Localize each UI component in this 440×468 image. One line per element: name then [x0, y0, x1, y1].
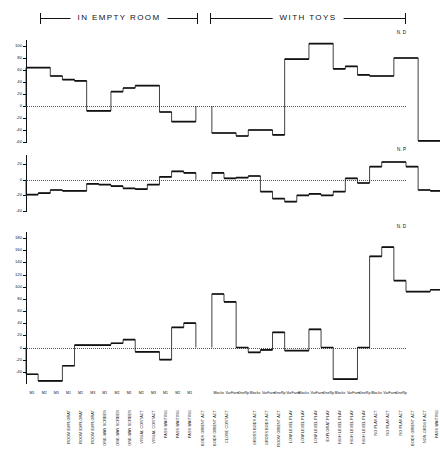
y-tick-label: 60 — [17, 309, 22, 313]
x-tick-sublabel: M2 — [113, 392, 122, 396]
step-top-group-1 — [26, 171, 196, 194]
bracket-label-right: WITH TOYS — [273, 8, 344, 28]
step-outline-group-1 — [26, 171, 196, 194]
step-top-group-2 — [212, 247, 440, 379]
x-tick-name: VISUAL CONTACT — [141, 410, 145, 468]
bracket-label-left: IN EMPTY ROOM — [71, 8, 168, 28]
x-tick-name: BODY ORIENT ACT — [202, 410, 206, 468]
x-tick-sublabel: VarFarm — [347, 392, 356, 396]
x-tick-name: NO PLAY ACT — [387, 410, 391, 468]
bracket-cap-right — [405, 13, 406, 24]
x-tick-sublabel: VarFarm — [383, 392, 392, 396]
x-tick-name: LOW LEVEL PLAY — [290, 410, 294, 468]
x-tick-sublabel: M1 — [125, 392, 134, 396]
y-tick-label: 40 — [17, 80, 22, 84]
x-tick-sublabel: M3 — [88, 392, 97, 396]
x-tick-name: PASS WAITING — [189, 410, 193, 468]
x-tick-name: BODY ORIENT ACT — [412, 410, 416, 468]
step-outline-group-2 — [212, 247, 440, 379]
x-tick-name: HIGH LEVEL PLAY — [351, 410, 355, 468]
x-tick-name: PASS WAITING — [177, 410, 181, 468]
bracket-cap-left — [40, 13, 41, 24]
x-tick-sublabel: M3 — [52, 392, 61, 396]
y-tick-label: -60 — [16, 140, 22, 144]
x-tick-sublabel: OneRp — [238, 392, 247, 396]
x-tick-name: NO PLAY ACT — [400, 410, 404, 468]
x-tick-name: GROSS BODY ACT — [266, 410, 270, 468]
step-outline-group-1 — [26, 323, 196, 381]
y-tick — [23, 142, 27, 143]
x-tick-name: ONE-WAY SCREEN — [104, 410, 108, 468]
bracket-in-empty-room: IN EMPTY ROOM — [40, 8, 198, 30]
x-tick-sublabel: VarFarm — [262, 392, 271, 396]
panel-c-step-trace — [26, 232, 406, 384]
x-tick-sublabel: OneRp — [274, 392, 283, 396]
y-tick-label: 160 — [15, 248, 22, 252]
y-tick-label: 80 — [17, 56, 22, 60]
x-tick-sublabel: M1 — [185, 392, 194, 396]
x-tick-sublabel: Blocks — [335, 392, 344, 396]
panel-a-step-trace — [26, 40, 406, 142]
x-tick-sublabel: M1 — [161, 392, 170, 396]
y-tick-label: 0 — [20, 345, 22, 349]
x-tick-name: PASS WAITING — [436, 410, 440, 468]
panel-a-corner-label: N. D — [397, 30, 406, 35]
x-tick-sublabel: M1 — [64, 392, 73, 396]
y-tick-label: 20 — [17, 333, 22, 337]
y-tick-label: 80 — [17, 297, 22, 301]
x-tick-sublabel: OneRp — [359, 392, 368, 396]
y-tick-label: -40 — [16, 209, 22, 213]
x-tick-sublabel: M2 — [173, 392, 182, 396]
x-tick-name: ROOM EXPLORAT — [68, 410, 72, 468]
x-tick-sublabel: M2 — [40, 392, 49, 396]
x-axis-labels: M1ROOM EXPLORATM2ROOM EXPLORATM3ROOM EXP… — [0, 392, 418, 468]
panel-b-step-trace — [26, 155, 406, 211]
x-tick-sublabel: M2 — [76, 392, 85, 396]
panel-c-plot: -40-20020406080100120140160180 — [26, 232, 406, 384]
x-tick-sublabel: VarFarm — [286, 392, 295, 396]
step-top-group-1 — [26, 323, 196, 381]
step-top-group-2 — [212, 44, 440, 141]
y-tick-label: 60 — [17, 68, 22, 72]
chart-panel-c: N. D -40-20020406080100120140160180 — [26, 232, 406, 384]
bracket-with-toys: WITH TOYS — [210, 8, 406, 30]
x-tick-sublabel: VarFarm — [226, 392, 235, 396]
x-tick-sublabel: M3 — [149, 392, 158, 396]
y-tick-label: -40 — [16, 370, 22, 374]
y-tick-label: -20 — [16, 116, 22, 120]
x-tick-name: ONE-WAY SCREEN — [117, 410, 121, 468]
x-tick-name: NON-GROUP ACT — [424, 410, 428, 468]
y-tick-label: 0 — [20, 178, 22, 182]
x-tick-name: LOW LEVEL PLAY — [315, 410, 319, 468]
y-tick-label: 100 — [15, 44, 22, 48]
chart-panel-a: N. D -60-40-20020406080100 — [26, 40, 406, 142]
x-tick-sublabel: M2 — [137, 392, 146, 396]
chart-panel-b: N. P -40-20020 — [26, 155, 406, 211]
x-tick-sublabel: OneRp — [395, 392, 404, 396]
x-tick-sublabel: Blocks — [213, 392, 222, 396]
x-tick-sublabel: Blocks — [371, 392, 380, 396]
x-tick-sublabel: VarFarm — [311, 392, 320, 396]
x-tick-name: ROOM EXPLORAT — [80, 410, 84, 468]
y-tick-label: 40 — [17, 321, 22, 325]
x-tick-sublabel: OneRp — [323, 392, 332, 396]
x-tick-name: BODY ORIENT ACT — [214, 410, 218, 468]
x-tick-sublabel: M1 — [100, 392, 109, 396]
y-tick — [23, 211, 27, 212]
bracket-cap-left — [210, 13, 211, 24]
x-tick-name: LOW LEVEL PLAY — [302, 410, 306, 468]
y-tick-label: 140 — [15, 260, 22, 264]
y-tick-label: 20 — [17, 92, 22, 96]
y-tick-label: 20 — [17, 162, 22, 166]
step-top-group-2 — [212, 162, 440, 202]
y-tick-label: 0 — [20, 104, 22, 108]
x-tick-name: HIGH LEVEL PLAY — [363, 410, 367, 468]
y-tick-label: -20 — [16, 358, 22, 362]
panel-b-corner-label: N. P — [397, 147, 406, 152]
panel-a-plot: -60-40-20020406080100 — [26, 40, 406, 142]
x-tick-name: NO PLAY ACT — [375, 410, 379, 468]
x-tick-name: PASS WAITING — [165, 410, 169, 468]
x-tick-name: ROOM EXPLORAT — [92, 410, 96, 468]
x-tick-name: EXPLORAT PLAY — [327, 410, 331, 468]
